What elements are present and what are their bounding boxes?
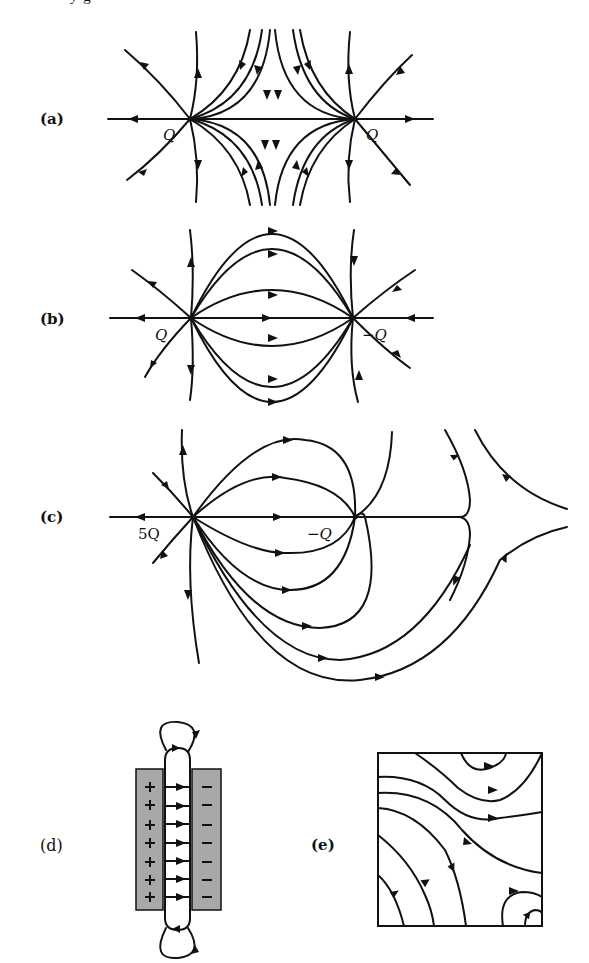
panel-b-diagram: Q −Q <box>110 227 433 406</box>
panel-c-diagram: 5Q −Q <box>110 430 567 681</box>
charge-label-b-right: −Q <box>362 326 387 344</box>
negative-plate <box>192 769 221 910</box>
charge-label-b-left: Q <box>155 326 167 344</box>
panel-a-diagram: Q Q <box>108 30 433 205</box>
charge-label-a-left: Q <box>163 126 175 144</box>
panel-d-diagram <box>136 722 221 958</box>
panel-e-diagram <box>378 753 542 926</box>
charge-label-c-left: 5Q <box>138 525 160 543</box>
field-lines-figure: Q Q <box>0 0 589 963</box>
charge-label-c-right: −Q <box>307 525 332 543</box>
charge-label-a-right: Q <box>366 126 378 144</box>
